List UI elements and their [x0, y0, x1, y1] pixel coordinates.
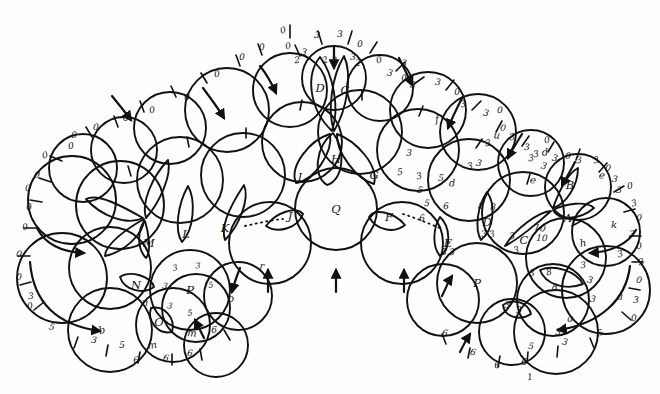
diagram-canvas: A B C D E F G H I J K L M N O D C P Q P … — [0, 0, 660, 394]
diagram-svg — [0, 0, 660, 394]
dotted-connectors — [245, 214, 440, 228]
